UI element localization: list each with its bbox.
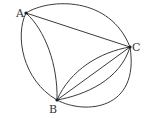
edge-a-c-straight xyxy=(26,13,130,47)
vertex-label-b: B xyxy=(49,103,57,116)
edge-b-c-straight xyxy=(57,47,130,100)
graph-diagram: A B C xyxy=(0,0,149,118)
edge-a-b-inner-arc xyxy=(26,13,57,100)
edge-a-c-outer-arc xyxy=(26,4,130,47)
vertex-b xyxy=(55,98,58,101)
vertex-a xyxy=(24,11,27,14)
vertex-label-a: A xyxy=(15,7,25,20)
vertex-label-c: C xyxy=(132,41,140,54)
